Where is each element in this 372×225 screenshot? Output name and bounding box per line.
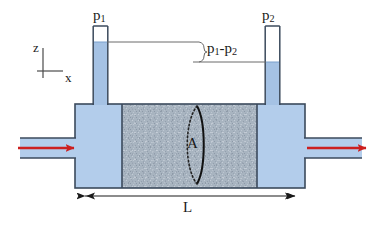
porous-medium-flow-diagram: p1 p2 p1-p2 z x A L <box>0 0 372 225</box>
axis-label-z: z <box>33 41 39 54</box>
pressure-drop-bracket <box>199 42 207 62</box>
pressure-drop-indicator <box>107 42 266 62</box>
pressure-label-p2: p2 <box>262 8 275 24</box>
diagram-canvas <box>0 0 372 225</box>
left-tube-fluid-column <box>94 42 107 105</box>
manometer-tube-right <box>265 26 280 105</box>
length-label: L <box>183 200 192 215</box>
right-tube-fluid-column <box>266 62 279 105</box>
pressure-label-p2-subscript: 2 <box>270 13 275 24</box>
coordinate-axes <box>37 48 63 78</box>
axis-label-x: x <box>65 71 72 84</box>
pressure-label-p1: p1 <box>93 8 106 24</box>
pressure-drop-label-sub-2: 2 <box>232 46 237 57</box>
cross-section-area-label: A <box>187 136 198 151</box>
pressure-drop-label: p1-p2 <box>207 41 237 57</box>
manometer-tube-left <box>93 26 108 105</box>
pressure-label-p1-subscript: 1 <box>101 13 106 24</box>
right-tube-empty-section <box>266 27 279 62</box>
pressure-drop-label-p2: p <box>225 40 233 56</box>
left-tube-empty-section <box>94 27 107 42</box>
